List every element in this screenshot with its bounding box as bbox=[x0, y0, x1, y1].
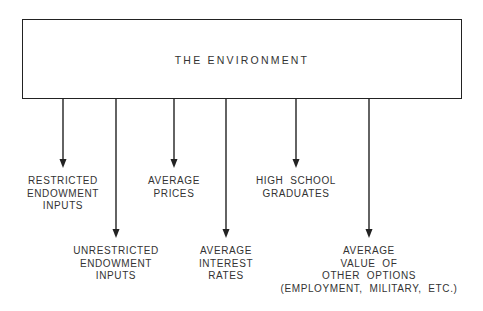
label-line: RATES bbox=[199, 270, 253, 283]
label-line: INTEREST bbox=[199, 258, 253, 271]
arrowhead-icon bbox=[366, 229, 373, 238]
label-line: AVERAGE bbox=[148, 175, 200, 188]
environment-title: THE ENVIRONMENT bbox=[23, 54, 461, 66]
label-line: INPUTS bbox=[27, 200, 99, 213]
label-line: GRADUATES bbox=[256, 188, 336, 201]
label-line: HIGH SCHOOL bbox=[256, 175, 336, 188]
label-line: OTHER OPTIONS bbox=[281, 270, 458, 283]
label-line: INPUTS bbox=[73, 270, 159, 283]
label-line: VALUE OF bbox=[281, 258, 458, 271]
environment-box: THE ENVIRONMENT bbox=[22, 19, 462, 99]
label-line: ENDOWMENT bbox=[27, 188, 99, 201]
arrowhead-icon bbox=[293, 159, 300, 168]
arrowhead-icon bbox=[113, 229, 120, 238]
label-high-school-graduates: HIGH SCHOOLGRADUATES bbox=[256, 175, 336, 200]
arrowhead-icon bbox=[171, 159, 178, 168]
arrowhead-icon bbox=[223, 229, 230, 238]
label-line: ENDOWMENT bbox=[73, 258, 159, 271]
label-line: AVERAGE bbox=[199, 245, 253, 258]
label-line: UNRESTRICTED bbox=[73, 245, 159, 258]
label-average-prices: AVERAGEPRICES bbox=[148, 175, 200, 200]
label-average-interest-rates: AVERAGEINTERESTRATES bbox=[199, 245, 253, 283]
label-restricted-endowment-inputs: RESTRICTEDENDOWMENTINPUTS bbox=[27, 175, 99, 213]
label-line: AVERAGE bbox=[281, 245, 458, 258]
label-average-value-of-other-options: AVERAGEVALUE OFOTHER OPTIONS(EMPLOYMENT,… bbox=[281, 245, 458, 295]
label-line: (EMPLOYMENT, MILITARY, ETC.) bbox=[281, 283, 458, 296]
arrowhead-icon bbox=[60, 159, 67, 168]
label-line: PRICES bbox=[148, 188, 200, 201]
label-unrestricted-endowment-inputs: UNRESTRICTEDENDOWMENTINPUTS bbox=[73, 245, 159, 283]
label-line: RESTRICTED bbox=[27, 175, 99, 188]
